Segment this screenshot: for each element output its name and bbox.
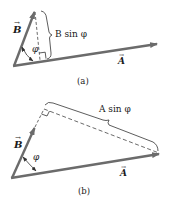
panel-b: B → φ A sin φ A → (b) [11, 102, 159, 196]
vector-a-overarrow-b: → [121, 163, 126, 170]
vector-b-overarrow-a: → [14, 19, 20, 27]
right-angle-marker-a [39, 52, 46, 58]
panel-a: B → φ B sin φ A → (a) [12, 11, 157, 86]
caption-b: (b) [78, 186, 90, 196]
angle-label-a: φ [32, 44, 39, 54]
angle-label-b: φ [33, 152, 40, 162]
dashed-extension-b [35, 109, 44, 127]
vector-b-overarrow-b: → [15, 134, 21, 142]
vector-a-overarrow-a: → [119, 51, 124, 58]
caption-a: (a) [77, 76, 89, 86]
dashed-perpendicular-b [44, 109, 159, 153]
component-label-a: B sin φ [55, 29, 87, 39]
component-label-b: A sin φ [98, 104, 131, 114]
vector-product-diagram: B → φ B sin φ A → (a) B → φ A sin φ A → … [0, 0, 180, 211]
brace-b-sin-phi [41, 11, 52, 59]
